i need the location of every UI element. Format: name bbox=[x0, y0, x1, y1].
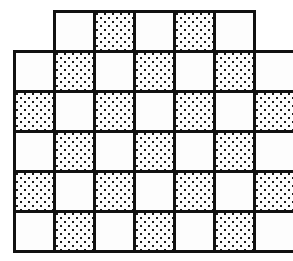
plain-square bbox=[213, 170, 256, 213]
dotted-square bbox=[173, 170, 216, 213]
plain-square bbox=[133, 170, 176, 213]
dotted-square bbox=[53, 50, 96, 93]
dotted-square bbox=[53, 210, 96, 253]
plain-square bbox=[173, 130, 216, 173]
plain-square bbox=[93, 50, 136, 93]
dotted-square bbox=[13, 170, 56, 213]
dotted-square bbox=[93, 170, 136, 213]
dotted-square bbox=[213, 130, 256, 173]
dotted-square bbox=[253, 170, 293, 213]
dotted-square bbox=[13, 90, 56, 133]
dotted-square bbox=[173, 10, 216, 53]
plain-square bbox=[53, 170, 96, 213]
dotted-square bbox=[213, 210, 256, 253]
plain-square bbox=[253, 50, 293, 93]
plain-square bbox=[213, 90, 256, 133]
dotted-square bbox=[213, 50, 256, 93]
plain-square bbox=[173, 50, 216, 93]
dotted-square bbox=[133, 50, 176, 93]
plain-square bbox=[213, 10, 256, 53]
dotted-square bbox=[133, 210, 176, 253]
plain-square bbox=[133, 10, 176, 53]
dotted-square bbox=[253, 90, 293, 133]
plain-square bbox=[93, 130, 136, 173]
dotted-square bbox=[93, 90, 136, 133]
dotted-square bbox=[173, 90, 216, 133]
plain-square bbox=[53, 90, 96, 133]
plain-square bbox=[93, 210, 136, 253]
checkerboard-grid bbox=[0, 0, 293, 261]
plain-square bbox=[133, 90, 176, 133]
plain-square bbox=[253, 210, 293, 253]
plain-square bbox=[173, 210, 216, 253]
plain-square bbox=[53, 10, 96, 53]
plain-square bbox=[13, 130, 56, 173]
plain-square bbox=[13, 50, 56, 93]
plain-square bbox=[13, 210, 56, 253]
dotted-square bbox=[133, 130, 176, 173]
plain-square bbox=[253, 130, 293, 173]
dotted-square bbox=[93, 10, 136, 53]
dotted-square bbox=[53, 130, 96, 173]
